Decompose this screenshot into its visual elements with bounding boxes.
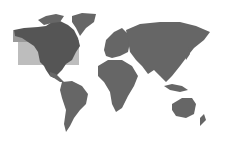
continent-australia[interactable] [172, 98, 196, 118]
continent-asia[interactable] [126, 22, 210, 82]
continent-greenland[interactable] [72, 13, 96, 36]
world-map-svg [0, 0, 227, 142]
continent-south-america[interactable] [60, 81, 88, 132]
continent-europe[interactable] [104, 28, 130, 58]
new-zealand [200, 114, 206, 126]
southeast-asia-islands [164, 84, 188, 92]
continent-africa[interactable] [98, 60, 138, 112]
world-map [0, 0, 227, 142]
